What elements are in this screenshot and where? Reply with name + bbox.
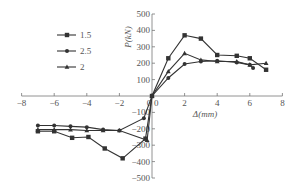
y-tick-label: 400 — [137, 25, 151, 35]
legend-label: 2 — [80, 62, 85, 72]
legend-label: 2.5 — [80, 46, 92, 56]
x-tick-label: −8 — [17, 98, 27, 108]
square-marker — [264, 68, 268, 72]
legend-item-2: 2 — [57, 62, 85, 72]
legend: 1.52.52 — [57, 30, 92, 72]
square-marker — [166, 56, 170, 60]
circle-marker — [251, 66, 255, 70]
x-axis-title: Δ(mm) — [192, 109, 217, 119]
y-tick-label: 300 — [137, 42, 151, 52]
y-tick-label: 200 — [137, 58, 151, 68]
x-tick-label: −4 — [82, 98, 92, 108]
circle-marker — [142, 116, 146, 120]
triangle-marker — [182, 51, 187, 55]
square-marker — [248, 56, 252, 60]
x-tick-label: 8 — [280, 98, 285, 108]
circle-marker — [36, 124, 40, 128]
square-marker — [70, 136, 74, 140]
series-2-5 — [36, 59, 255, 133]
series-line — [38, 61, 253, 131]
hysteresis-chart: −8−6−4−2024680−500−400−300−200−100100200… — [0, 0, 295, 195]
square-marker — [65, 33, 69, 37]
y-tick-label: 100 — [137, 75, 151, 85]
square-marker — [199, 36, 203, 40]
y-tick-label: −500 — [131, 173, 150, 183]
x-tick-label: 4 — [215, 98, 220, 108]
circle-marker — [65, 49, 69, 53]
y-tick-label: 500 — [137, 9, 151, 19]
circle-marker — [166, 76, 170, 80]
x-tick-label: 0 — [154, 98, 159, 108]
legend-item-2-5: 2.5 — [57, 46, 92, 56]
square-marker — [120, 156, 124, 160]
legend-item-1-5: 1.5 — [57, 30, 92, 40]
y-tick-label: −400 — [131, 157, 150, 167]
square-marker — [235, 54, 239, 58]
x-tick-label: 6 — [248, 98, 253, 108]
square-marker — [86, 135, 90, 139]
square-marker — [103, 146, 107, 150]
y-axis-title: P(kN) — [123, 26, 133, 49]
circle-marker — [183, 62, 187, 66]
x-tick-label: −2 — [115, 98, 125, 108]
x-tick-label: 2 — [182, 98, 187, 108]
circle-marker — [52, 124, 56, 128]
x-tick-label: −6 — [49, 98, 59, 108]
square-marker — [182, 33, 186, 37]
legend-label: 1.5 — [80, 30, 92, 40]
square-marker — [215, 53, 219, 57]
